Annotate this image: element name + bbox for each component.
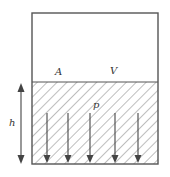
height-dimension-arrow [18, 83, 25, 164]
volume-label: V [110, 65, 119, 76]
area-label: A [54, 66, 62, 77]
tank-diagram: A V p h [0, 0, 170, 177]
fluid-region [32, 82, 158, 164]
pressure-label: p [93, 99, 100, 110]
height-label: h [9, 117, 15, 128]
